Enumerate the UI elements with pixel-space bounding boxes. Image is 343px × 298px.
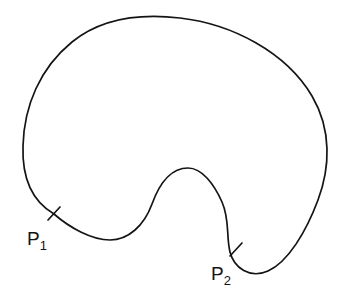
point-p1-label-subscript: 1 <box>40 238 47 253</box>
figure-background <box>0 0 343 298</box>
figure-container: P1 P2 <box>0 0 343 298</box>
point-p2-label-subscript: 2 <box>224 273 231 288</box>
closed-curve-figure: P1 P2 <box>0 0 343 298</box>
point-p2-label-main: P <box>211 263 224 284</box>
point-p1-label-main: P <box>27 228 40 249</box>
